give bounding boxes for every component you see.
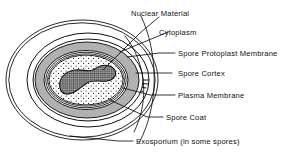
label-spore-protoplast-membrane: Spore Protoplast Membrane	[178, 49, 277, 58]
label-exosporium: Exosporium (in some spores)	[136, 137, 240, 146]
label-nuclear-material: Nuclear Material	[131, 9, 189, 18]
endospore-diagram-figure: Nuclear Material Cytoplasm Spore Protopl…	[0, 0, 301, 158]
label-spore-cortex: Spore Cortex	[178, 69, 225, 78]
label-spore-coat: Spore Coat	[166, 113, 207, 122]
label-group: Nuclear Material Cytoplasm Spore Protopl…	[131, 9, 277, 146]
label-plasma-membrane: Plasma Membrane	[178, 91, 244, 100]
label-cytoplasm: Cytoplasm	[159, 28, 197, 37]
endospore-diagram-canvas: Nuclear Material Cytoplasm Spore Protopl…	[0, 0, 301, 158]
